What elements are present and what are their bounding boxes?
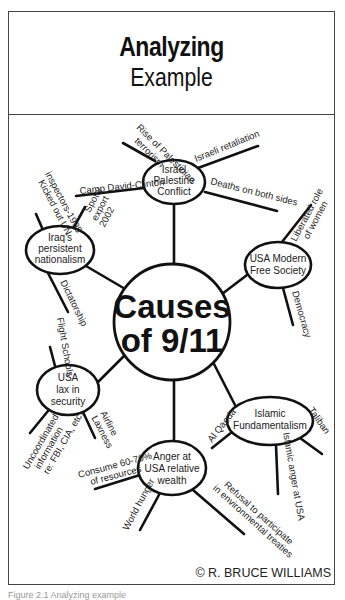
node-label: lax in — [56, 384, 79, 395]
node-label: Islamic — [254, 408, 285, 419]
center-line1: Causes — [113, 288, 230, 325]
node-label: USA relative — [144, 463, 199, 474]
node-iraq: Iraq's persistent nationalism — [26, 226, 94, 274]
center-line2: of 9/11 — [121, 322, 224, 359]
node-islamic-fundamentalism: Islamic Fundamentalism — [227, 397, 313, 445]
branch-world-hunger: World hunger — [120, 477, 156, 532]
node-label: persistent — [38, 243, 82, 254]
node-label: Anger at — [153, 451, 191, 462]
figure-caption: Figure 2.1 Analyzing example — [8, 590, 126, 600]
branch-label: in environmental treaties — [211, 482, 295, 560]
node-label: Conflict — [157, 186, 191, 197]
node-label: security — [51, 396, 85, 407]
branch-deaths-both-sides: Deaths on both sides — [210, 175, 300, 207]
branch-refusal-treaties: Refusal to participate — [222, 479, 296, 547]
node-label: USA Modern — [250, 253, 307, 264]
branch-islamic-anger: Islamic anger at USA — [281, 431, 307, 521]
node-label: Fundamentalism — [233, 420, 307, 431]
node-label: nationalism — [35, 254, 86, 265]
copyright-credit: © R. BRUCE WILLIAMS — [195, 566, 331, 580]
node-label: Free Society — [250, 265, 306, 276]
node-usa-modern: USA Modern Free Society — [245, 242, 311, 288]
node-label: wealth — [157, 475, 187, 486]
center-node: Causes of 9/11 — [113, 264, 230, 380]
branch-democracy: Democracy — [290, 290, 314, 339]
